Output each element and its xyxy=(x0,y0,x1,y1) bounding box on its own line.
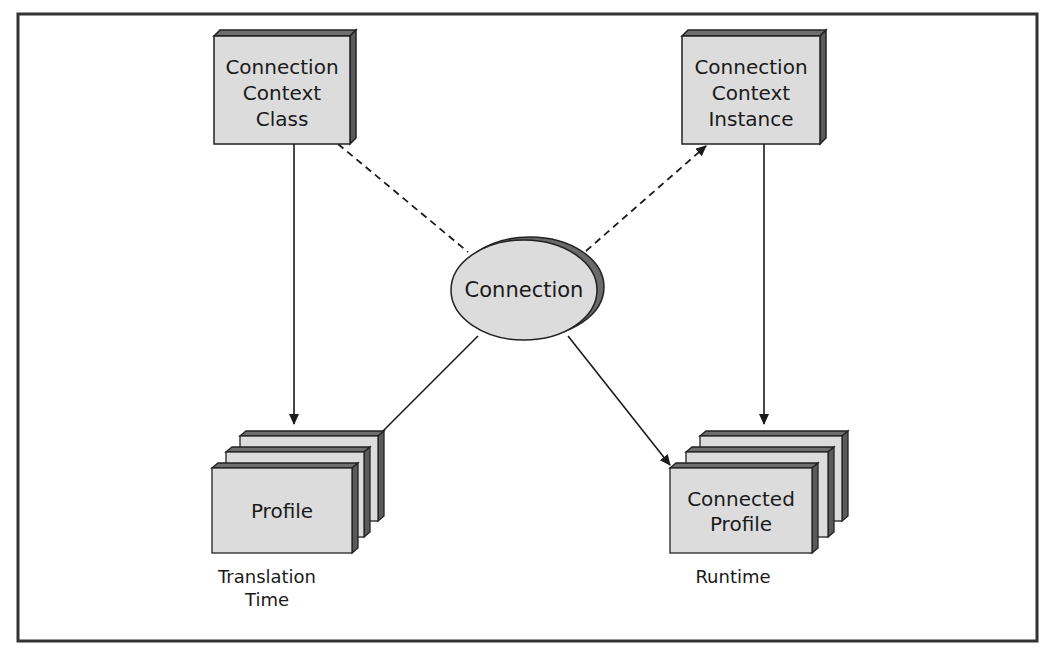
card-middle-top xyxy=(226,447,370,452)
diagram-canvas: Connection Context Class Connection Cont… xyxy=(0,0,1049,650)
node-label-line-3: Class xyxy=(256,107,309,131)
card-back-top xyxy=(240,431,384,436)
card-middle-side xyxy=(364,447,370,537)
node-label: Connection xyxy=(465,278,584,302)
node-label-line-1: Connection xyxy=(225,55,338,79)
box-top-face xyxy=(214,30,356,36)
card-front-top xyxy=(212,463,358,468)
card-front-side xyxy=(352,463,358,553)
caption-translation: Translation xyxy=(217,566,316,587)
edge-class-to-connection xyxy=(338,144,468,252)
node-label-line-2: Context xyxy=(243,81,322,105)
node-label-line-2: Profile xyxy=(710,512,772,536)
card-back-side xyxy=(378,431,384,521)
node-label-line-1: Connection xyxy=(694,55,807,79)
box-side-face xyxy=(350,30,356,144)
card-middle-side xyxy=(828,447,834,537)
edge-connection-to-profile xyxy=(382,336,478,432)
node-label-line-2: Context xyxy=(712,81,791,105)
caption-runtime: Runtime xyxy=(695,566,770,587)
node-connection-context-class[interactable]: Connection Context Class xyxy=(214,30,356,144)
card-back-side xyxy=(842,431,848,521)
card-front-top xyxy=(670,463,818,468)
caption-time: Time xyxy=(244,589,289,610)
edge-connection-to-connected-profile xyxy=(568,336,670,465)
card-middle-top xyxy=(686,447,834,452)
node-label-line-1: Connected xyxy=(687,487,795,511)
node-connection-context-instance[interactable]: Connection Context Instance xyxy=(682,30,826,144)
node-connected-profile-stack[interactable]: Connected Profile xyxy=(670,431,848,553)
card-back-top xyxy=(700,431,848,436)
box-top-face xyxy=(682,30,826,36)
card-front-side xyxy=(812,463,818,553)
node-profile-stack[interactable]: Profile xyxy=(212,431,384,553)
node-label: Profile xyxy=(251,499,313,523)
edge-connection-to-instance xyxy=(586,146,706,251)
box-side-face xyxy=(820,30,826,144)
node-connection[interactable]: Connection xyxy=(451,237,604,340)
node-label-line-3: Instance xyxy=(708,107,793,131)
